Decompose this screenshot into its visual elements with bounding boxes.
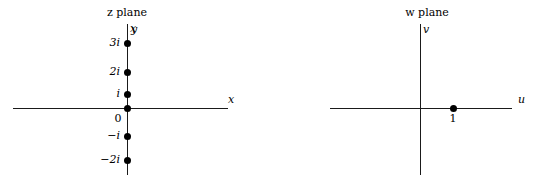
z-plane-point-origin-label: 0 <box>109 112 127 125</box>
z-plane-point-i <box>124 91 131 98</box>
w-plane-v-axis <box>420 24 421 175</box>
z-plane-point-2i-label: 2i <box>95 65 120 78</box>
z-plane-y-axis-label: y <box>131 23 137 36</box>
z-plane-imaginary-axis <box>127 24 128 175</box>
w-plane-panel: w plane v u 1 <box>270 0 538 189</box>
complex-plane-mapping-figure: z plane x x y 3i 2i i 0 −i −2i w plane <box>0 0 538 189</box>
w-plane-title: w plane <box>395 6 459 19</box>
w-plane-point-1-label: 1 <box>444 112 462 125</box>
w-plane-v-axis-label: v <box>423 23 429 36</box>
z-plane-panel: z plane x x y 3i 2i i 0 −i −2i <box>0 0 270 189</box>
z-plane-point-neg-i <box>124 133 131 140</box>
z-plane-point-3i-label: 3i <box>95 36 120 49</box>
z-plane-point-neg-i-label: −i <box>92 129 120 142</box>
z-plane-point-origin <box>124 105 131 112</box>
w-plane-u-axis-label: u <box>518 93 525 106</box>
z-plane-point-i-label: i <box>95 87 120 100</box>
z-plane-x-axis-label-right: x <box>228 93 234 106</box>
z-plane-title: z plane <box>97 6 157 19</box>
w-plane-point-1 <box>450 105 457 112</box>
z-plane-real-axis <box>13 108 228 109</box>
z-plane-point-neg-2i-label: −2i <box>92 153 120 166</box>
z-plane-point-3i <box>124 40 131 47</box>
w-plane-u-axis <box>330 108 512 109</box>
z-plane-point-2i <box>124 69 131 76</box>
z-plane-point-neg-2i <box>124 157 131 164</box>
